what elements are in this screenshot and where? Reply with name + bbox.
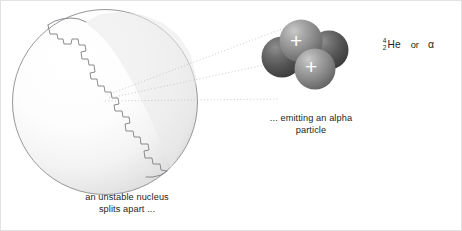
nuclide-index-stack: 4 2 xyxy=(382,37,387,52)
mass-number: 4 xyxy=(382,37,387,44)
alpha-symbol: α xyxy=(428,39,434,50)
element-symbol: He xyxy=(388,39,401,50)
proton-bottom xyxy=(295,49,336,90)
nuclide-notation: 4 2 He or α xyxy=(382,37,434,52)
atomic-number: 2 xyxy=(382,44,387,51)
conjunction-or: or xyxy=(411,39,419,50)
unstable-nucleus-sphere xyxy=(13,10,198,195)
alpha-particle-cluster xyxy=(262,20,349,90)
alpha-decay-figure: + + an unstable nucleus splits apart ...… xyxy=(0,0,462,231)
alpha-particle-caption: ... emitting an alpha particle xyxy=(251,112,371,137)
nucleus-caption: an unstable nucleus splits apart ... xyxy=(37,191,217,216)
